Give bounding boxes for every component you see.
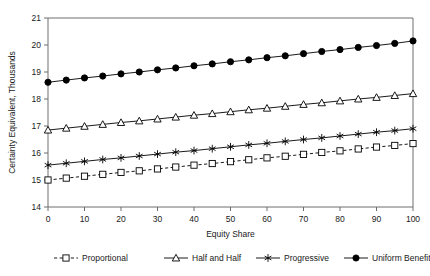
x-axis-title: Equity Share <box>206 229 255 239</box>
marker-filled-circle <box>355 44 361 50</box>
legend-item-uniform-benefit[interactable]: Uniform Benefit <box>344 253 430 263</box>
marker-filled-circle <box>209 61 215 67</box>
marker-filled-circle <box>300 51 306 57</box>
y-axis-tick-label: 15 <box>32 175 42 185</box>
marker-filled-circle <box>246 57 252 63</box>
marker-open-square <box>45 177 51 183</box>
marker-open-square <box>154 166 160 172</box>
marker-open-square <box>373 144 379 150</box>
marker-filled-circle-legend <box>353 255 359 261</box>
marker-filled-circle <box>63 77 69 83</box>
marker-open-square <box>173 164 179 170</box>
marker-filled-circle <box>319 48 325 54</box>
marker-open-square <box>300 151 306 157</box>
marker-open-square <box>355 146 361 152</box>
legend-item-progressive[interactable]: Progressive <box>256 253 329 263</box>
marker-filled-circle <box>191 63 197 69</box>
x-axis-tick-label: 70 <box>299 214 309 224</box>
y-axis-tick-label: 20 <box>32 40 42 50</box>
marker-open-square <box>246 157 252 163</box>
marker-open-triangle <box>409 90 416 97</box>
series-uniform-benefit <box>45 38 416 86</box>
marker-open-square <box>100 171 106 177</box>
y-axis-tick-label: 18 <box>32 94 42 104</box>
y-axis-tick-label: 21 <box>32 13 42 23</box>
marker-open-square-legend <box>63 255 69 261</box>
marker-open-square <box>227 159 233 165</box>
legend-item-half-and-half[interactable]: Half and Half <box>164 253 242 263</box>
legend-label: Half and Half <box>192 253 242 263</box>
legend-label: Progressive <box>284 253 329 263</box>
marker-filled-circle <box>227 59 233 65</box>
marker-filled-circle <box>282 53 288 59</box>
marker-open-square <box>136 168 142 174</box>
y-axis-tick-label: 14 <box>32 202 42 212</box>
marker-open-square <box>191 162 197 168</box>
x-axis-tick-label: 80 <box>335 214 345 224</box>
legend-item-proportional[interactable]: Proportional <box>54 253 128 263</box>
x-axis-tick-label: 90 <box>372 214 382 224</box>
marker-open-square <box>81 173 87 179</box>
marker-filled-circle <box>118 71 124 77</box>
marker-filled-circle <box>264 55 270 61</box>
marker-open-square <box>63 175 69 181</box>
x-axis-tick-label: 30 <box>153 214 163 224</box>
marker-filled-circle <box>81 75 87 81</box>
marker-filled-circle <box>392 40 398 46</box>
marker-open-square <box>282 153 288 159</box>
chart-container: 14151617181920210102030405060708090100Eq… <box>0 0 430 276</box>
x-axis-tick-label: 50 <box>226 214 236 224</box>
legend-label: Proportional <box>82 253 128 263</box>
y-axis-title: Certainty Equivalent, Thousands <box>7 51 17 174</box>
x-axis-tick-label: 10 <box>80 214 90 224</box>
marker-filled-circle <box>100 73 106 79</box>
x-axis-tick-label: 0 <box>46 214 51 224</box>
marker-open-square <box>319 149 325 155</box>
marker-filled-circle <box>373 42 379 48</box>
x-axis-tick-label: 60 <box>262 214 272 224</box>
y-axis-tick-label: 16 <box>32 148 42 158</box>
marker-open-square <box>410 140 416 146</box>
marker-filled-circle <box>337 46 343 52</box>
y-axis-tick-label: 19 <box>32 67 42 77</box>
marker-filled-circle <box>136 69 142 75</box>
series-half-and-half <box>44 90 416 133</box>
marker-filled-circle <box>154 67 160 73</box>
x-axis-tick-label: 100 <box>406 214 420 224</box>
x-axis-tick-label: 20 <box>116 214 126 224</box>
marker-open-square <box>118 169 124 175</box>
marker-filled-circle <box>173 65 179 71</box>
y-axis-tick-label: 17 <box>32 121 42 131</box>
marker-open-square <box>209 160 215 166</box>
marker-filled-circle <box>45 79 51 85</box>
marker-open-square <box>392 142 398 148</box>
marker-open-square <box>264 155 270 161</box>
x-axis-tick-label: 40 <box>189 214 199 224</box>
legend-label: Uniform Benefit <box>372 253 430 263</box>
marker-open-square <box>337 148 343 154</box>
marker-filled-circle <box>410 38 416 44</box>
line-chart: 14151617181920210102030405060708090100Eq… <box>0 0 430 276</box>
